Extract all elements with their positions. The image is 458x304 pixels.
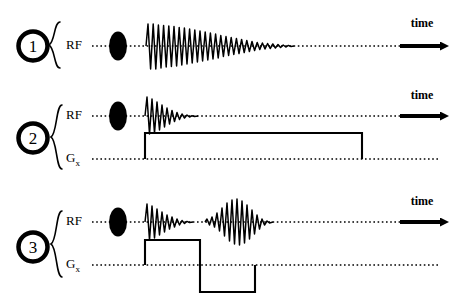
gradient-echo-signal xyxy=(205,199,273,245)
sequence-row-3: 3 time xyxy=(19,194,442,292)
gx-subscript-3: x xyxy=(75,264,80,274)
curly-brace-icon xyxy=(51,105,62,169)
channel-label-gx-3: Gx xyxy=(66,256,80,274)
circled-number-icon: 1 xyxy=(19,32,48,61)
gradient-lobe-positive-2 xyxy=(145,133,362,159)
gx-base-letter-3: G xyxy=(66,256,75,271)
curly-brace-icon xyxy=(51,211,62,277)
circled-number-icon: 2 xyxy=(19,124,48,153)
time-label-2: time xyxy=(411,88,434,102)
filled-ellipse-icon xyxy=(109,208,127,237)
filled-ellipse-icon xyxy=(109,32,127,61)
channel-label-gx-2: Gx xyxy=(66,150,80,168)
circled-number-icon: 3 xyxy=(19,233,48,262)
row-number-2-text: 2 xyxy=(29,129,38,148)
row-number-1-text: 1 xyxy=(29,37,38,56)
gx-base-letter-2: G xyxy=(66,150,75,165)
gx-subscript-2: x xyxy=(75,158,80,168)
filled-ellipse-icon xyxy=(109,102,127,131)
channel-label-rf-1: RF xyxy=(66,37,82,53)
channel-label-rf-3: RF xyxy=(66,213,82,229)
fid-signal-long xyxy=(146,24,294,69)
gradient-lobes-bipolar-3 xyxy=(145,240,255,292)
sequence-row-2: 2 time xyxy=(19,88,442,169)
curly-brace-icon xyxy=(49,22,60,68)
row-number-3-text: 3 xyxy=(29,238,38,257)
time-label-3: time xyxy=(411,194,434,208)
time-label-1: time xyxy=(411,16,434,30)
channel-label-rf-2: RF xyxy=(66,107,82,123)
